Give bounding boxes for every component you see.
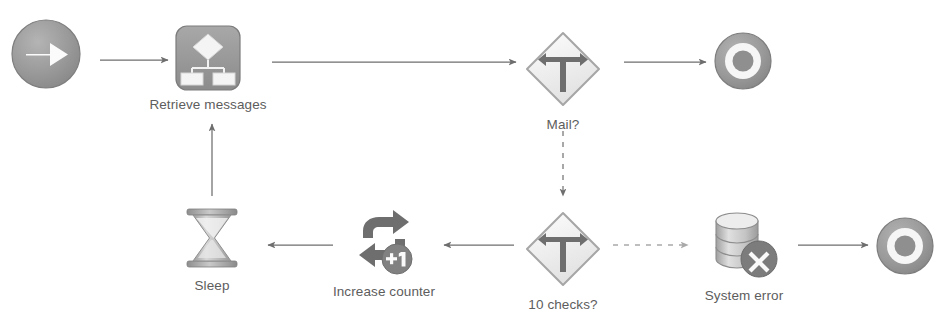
node-ten-checks-decision[interactable]: 10 checks? xyxy=(509,206,617,312)
node-mail-decision-label: Mail? xyxy=(547,117,580,132)
hierarchy-process-icon xyxy=(174,24,242,92)
node-end-success[interactable] xyxy=(712,30,774,92)
node-mail-decision[interactable]: Mail? xyxy=(510,26,616,132)
node-ten-checks-decision-label: 10 checks? xyxy=(528,297,597,312)
node-start[interactable] xyxy=(8,16,84,92)
start-circle-arrow-icon xyxy=(8,16,84,92)
decision-fork-sign-icon xyxy=(520,206,606,292)
node-system-error-label: System error xyxy=(705,288,783,303)
loop-plus-one-icon xyxy=(347,205,421,279)
end-bullseye-icon xyxy=(712,30,774,92)
node-retrieve-messages-label: Retrieve messages xyxy=(149,97,266,112)
node-end-error[interactable] xyxy=(874,215,936,277)
database-error-icon xyxy=(706,207,782,283)
node-sleep[interactable]: Sleep xyxy=(166,203,258,293)
node-sleep-label: Sleep xyxy=(194,278,229,293)
node-system-error[interactable]: System error xyxy=(685,207,803,303)
node-increase-counter-label: Increase counter xyxy=(333,284,435,299)
decision-fork-sign-icon xyxy=(520,26,606,112)
node-retrieve-messages[interactable]: Retrieve messages xyxy=(134,24,282,112)
diagram-canvas: Retrieve messages Mail? xyxy=(0,0,950,326)
node-increase-counter[interactable]: Increase counter xyxy=(316,205,452,299)
end-bullseye-icon xyxy=(874,215,936,277)
hourglass-icon xyxy=(177,203,247,273)
